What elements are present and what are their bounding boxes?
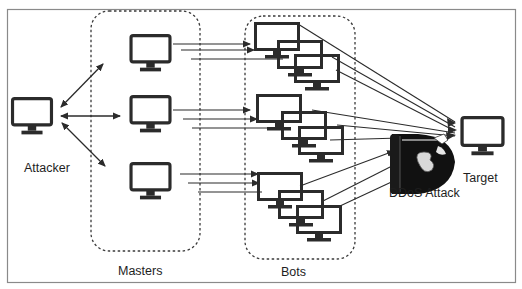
bots-label: Bots xyxy=(281,265,306,279)
bot-monitor-icon xyxy=(298,207,341,242)
attacker-label: Attacker xyxy=(24,161,70,175)
master-monitor-icon-3 xyxy=(131,164,170,200)
target-label: Target xyxy=(463,171,498,185)
master-monitor-icon-1 xyxy=(131,36,170,72)
bot-cluster-1 xyxy=(256,24,339,91)
bot-monitor-icon xyxy=(296,56,339,91)
attacker-monitor-icon xyxy=(13,99,52,135)
master-monitor-icon-2 xyxy=(131,97,170,133)
bot-monitor-icon xyxy=(300,128,343,163)
target-monitor-icon xyxy=(462,118,503,156)
impact-arrowheads xyxy=(446,118,457,140)
bot-cluster-3 xyxy=(259,174,341,242)
bullet-bill-icon xyxy=(390,134,455,194)
ddos-diagram xyxy=(0,0,522,289)
ddos-attack-label: DDoS Attack xyxy=(389,186,460,200)
masters-label: Masters xyxy=(118,264,162,278)
bot-cluster-2 xyxy=(258,96,343,163)
